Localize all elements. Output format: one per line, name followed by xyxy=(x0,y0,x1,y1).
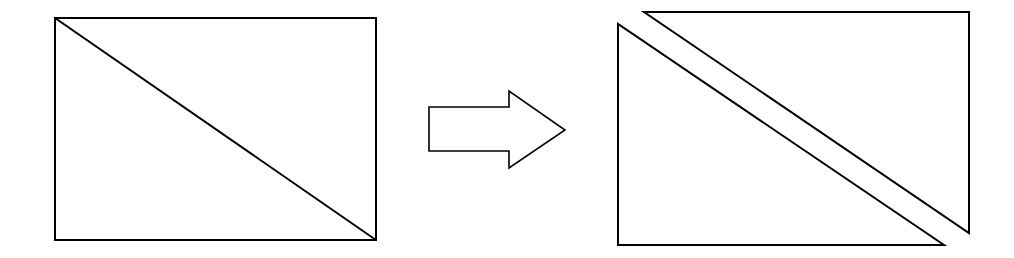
lower-triangle xyxy=(618,24,944,245)
diagonal-line xyxy=(55,18,376,240)
original-rectangle xyxy=(55,18,376,240)
diagram-canvas xyxy=(0,0,1014,258)
split-triangles xyxy=(618,12,969,245)
upper-triangle xyxy=(644,12,969,233)
right-arrow-icon xyxy=(429,91,565,168)
